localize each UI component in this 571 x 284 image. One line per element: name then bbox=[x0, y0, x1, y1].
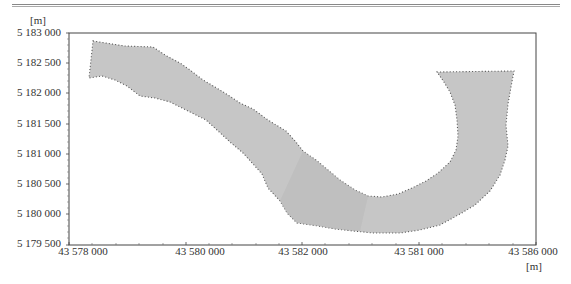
plot-area bbox=[0, 0, 571, 284]
